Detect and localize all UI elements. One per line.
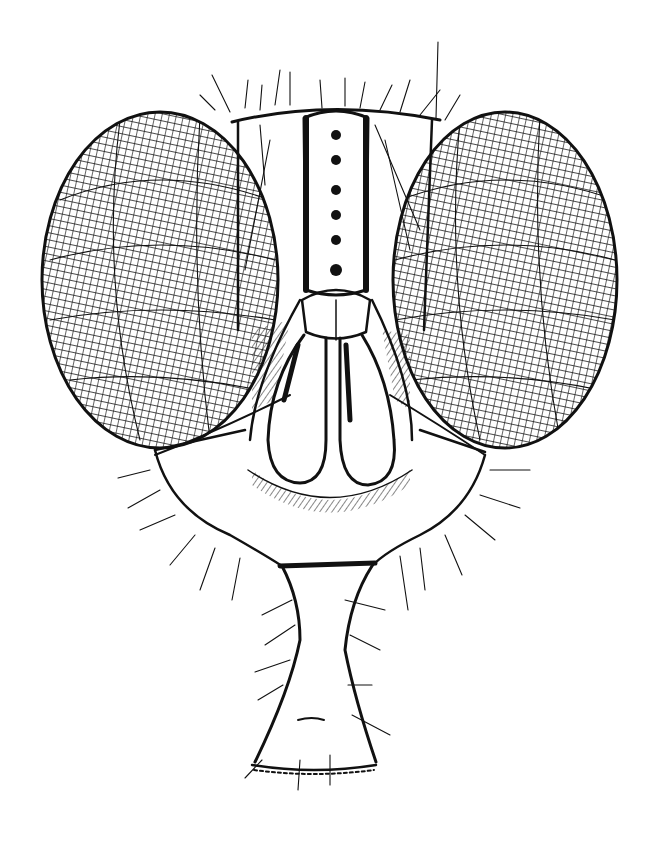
frontal-stripe <box>304 111 368 295</box>
fly-head-illustration <box>0 0 649 847</box>
proboscis <box>252 566 376 774</box>
right-compound-eye <box>390 110 620 455</box>
illustration-canvas <box>0 0 649 847</box>
oral-margin <box>280 563 375 566</box>
right-antenna <box>340 335 394 485</box>
left-compound-eye <box>40 110 280 455</box>
left-gena <box>155 450 282 566</box>
labellum <box>252 765 376 770</box>
